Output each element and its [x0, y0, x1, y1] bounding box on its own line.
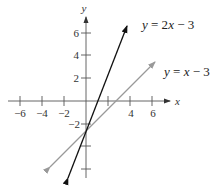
x-tick-label: −6: [14, 107, 26, 119]
y-tick-label: 2: [74, 72, 80, 84]
y-axis-label: y: [81, 2, 87, 14]
x-axis-label: x: [174, 95, 180, 107]
x-tick-label: 4: [128, 107, 134, 119]
x-tick-label: 6: [150, 107, 156, 119]
y-tick-label: 6: [74, 27, 80, 39]
equation-label-2x-minus-3: y = 2x − 3: [140, 17, 194, 32]
equation-label-x-minus-3: y = x − 3: [162, 64, 210, 79]
y-tick-label: 4: [74, 49, 80, 61]
x-tick-label: −4: [36, 107, 48, 119]
y-tick-label: −2: [68, 118, 80, 130]
coordinate-plane: −6 −4 −2 4 6 6 4 2 −2 x y y = 2x − 3 y =…: [0, 0, 215, 186]
